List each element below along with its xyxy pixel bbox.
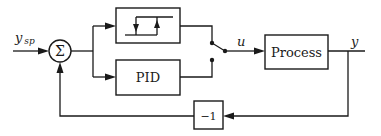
process-label: Process <box>271 45 322 60</box>
arrowhead-icon <box>105 74 116 81</box>
branch-lines <box>71 23 116 81</box>
control-label: u <box>237 34 245 49</box>
arrowhead-icon <box>57 62 64 73</box>
setpoint-signal: ysp <box>13 30 49 55</box>
pid-block: PID <box>116 60 180 95</box>
arrowhead-icon <box>38 48 49 55</box>
sigma-symbol: Σ <box>55 43 65 59</box>
arrowhead-icon <box>105 23 116 30</box>
relay-box <box>116 8 180 43</box>
control-signal: u <box>225 34 265 55</box>
arrowhead-icon <box>254 48 265 55</box>
output-signal: y <box>328 34 365 51</box>
arrowhead-icon <box>223 113 234 120</box>
pid-label: PID <box>136 70 160 85</box>
switch-icon <box>210 41 227 62</box>
switch-inputs <box>180 26 212 77</box>
relay-block <box>116 8 180 43</box>
output-label: y <box>350 34 359 49</box>
gain-label: −1 <box>200 110 216 123</box>
setpoint-label: ysp <box>14 30 35 46</box>
block-diagram: ysp Σ PID <box>0 0 381 136</box>
process-block: Process <box>265 35 328 69</box>
summing-junction: Σ <box>49 40 71 62</box>
